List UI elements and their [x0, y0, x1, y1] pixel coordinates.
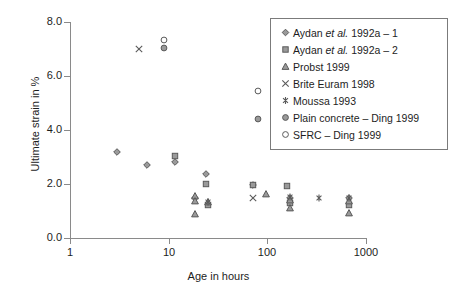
y-axis-line — [70, 22, 71, 239]
y-axis-title: Ultimate strain in % — [29, 44, 41, 204]
x-axis-tick — [366, 239, 367, 244]
x-axis-tick-label: 100 — [247, 246, 287, 258]
legend-item-label: Brite Euram 1998 — [293, 78, 375, 90]
square-marker-icon — [278, 42, 293, 57]
scatter-chart-figure: 0.02.04.06.08.01101001000 Age in hours U… — [0, 0, 454, 293]
circle-open-marker-icon — [278, 127, 293, 142]
cross-marker-icon — [278, 76, 293, 91]
x-axis-tick-label: 1 — [50, 246, 90, 258]
legend-item-label: Aydan et al. 1992a – 1 — [293, 27, 398, 39]
legend-item-circle-open[interactable]: SFRC – Ding 1999 — [271, 126, 447, 143]
x-axis-tick-label: 10 — [149, 246, 189, 258]
diamond-marker-icon — [278, 25, 293, 40]
legend-item-asterisk[interactable]: Moussa 1993 — [271, 92, 447, 109]
y-axis-tick — [64, 184, 70, 185]
triangle-marker-icon — [278, 59, 293, 74]
circle-dot-marker-icon — [278, 110, 293, 125]
legend-item-label: Aydan et al. 1992a – 2 — [293, 44, 398, 56]
legend-item-triangle[interactable]: Probst 1999 — [271, 58, 447, 75]
x-axis-tick-label: 1000 — [346, 246, 386, 258]
legend-item-label: SFRC – Ding 1999 — [293, 129, 381, 141]
legend-item-circle-dot[interactable]: Plain concrete – Ding 1999 — [271, 109, 447, 126]
legend-item-square[interactable]: Aydan et al. 1992a – 2 — [271, 41, 447, 58]
chart-legend: Aydan et al. 1992a – 1Aydan et al. 1992a… — [270, 18, 448, 150]
y-axis-tick-label: 8.0 — [28, 16, 62, 27]
legend-item-label: Plain concrete – Ding 1999 — [293, 112, 419, 124]
y-axis-tick — [64, 76, 70, 77]
legend-item-diamond[interactable]: Aydan et al. 1992a – 1 — [271, 24, 447, 41]
x-axis-tick — [70, 239, 71, 244]
legend-item-label: Moussa 1993 — [293, 95, 356, 107]
legend-item-cross[interactable]: Brite Euram 1998 — [271, 75, 447, 92]
y-axis-tick-label: 0.0 — [28, 232, 62, 243]
legend-item-label: Probst 1999 — [293, 61, 350, 73]
x-axis-line — [70, 238, 367, 239]
x-axis-tick — [169, 239, 170, 244]
x-axis-tick — [267, 239, 268, 244]
y-axis-tick — [64, 130, 70, 131]
y-axis-tick — [64, 22, 70, 23]
x-axis-title: Age in hours — [70, 270, 367, 282]
asterisk-marker-icon — [278, 93, 293, 108]
